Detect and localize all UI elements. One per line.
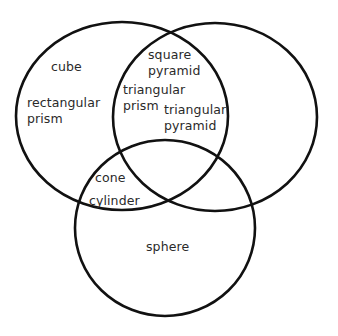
- label-square-pyramid: square pyramid: [148, 47, 200, 79]
- label-cone: cone: [95, 170, 126, 186]
- label-rectangular-prism: rectangular prism: [27, 95, 100, 127]
- label-sphere: sphere: [146, 239, 189, 255]
- label-cube: cube: [51, 59, 82, 75]
- venn-diagram-canvas: cube rectangular prism square pyramid tr…: [0, 0, 338, 336]
- bottom-circle: [75, 140, 255, 316]
- label-triangular-pyramid: triangular pyramid: [164, 102, 226, 134]
- label-cylinder: cylinder: [89, 193, 140, 209]
